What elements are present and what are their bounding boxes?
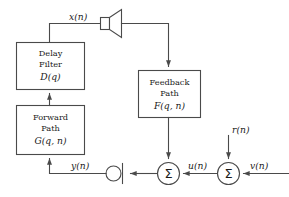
signal-label-y: y(n) xyxy=(71,160,89,171)
wire-delay-to-speaker xyxy=(50,24,101,43)
forward-path-block xyxy=(17,106,85,155)
wire-speaker-to-feedback xyxy=(122,24,169,67)
sum-left-sigma-glyph: Σ xyxy=(158,166,179,181)
sum-right-sigma-glyph: Σ xyxy=(218,166,239,181)
signal-label-u: u(n) xyxy=(188,160,207,171)
diagram-vector-layer xyxy=(0,0,289,197)
feedback-path-block xyxy=(139,71,201,118)
signal-label-r: r(n) xyxy=(232,124,249,135)
block-diagram-figure: Delay Filter D(q) Forward Path G(q, n) F… xyxy=(0,0,289,197)
delay-filter-block xyxy=(17,43,85,90)
microphone-icon xyxy=(106,164,123,184)
signal-label-x: x(n) xyxy=(69,11,87,22)
loudspeaker-icon xyxy=(101,10,122,38)
signal-label-v: v(n) xyxy=(250,160,268,171)
